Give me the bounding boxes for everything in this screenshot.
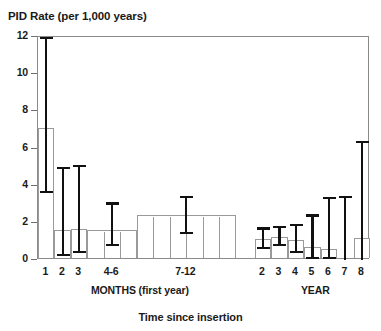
error-bar-cap-top [306, 214, 319, 216]
y-axis-tick-label: 4 [22, 178, 28, 190]
error-bar-cap-bottom [306, 257, 319, 259]
error-bar-cap-bottom [40, 191, 53, 193]
bar-divider [104, 232, 105, 258]
error-bar-cap-top [73, 165, 86, 167]
x-axis-title: Time since insertion [0, 311, 381, 323]
error-bar-cap-bottom [257, 247, 270, 249]
error-bar-cap-top [106, 202, 119, 204]
error-bar-cap-top [323, 197, 336, 199]
error-bar-cap-bottom [106, 244, 119, 246]
error-bar-cap-bottom [180, 232, 193, 234]
error-bar-cap-top [180, 196, 193, 198]
error-bar-stem [361, 141, 363, 260]
bar-divider [120, 232, 121, 258]
bars-layer [38, 37, 368, 258]
y-axis-tick-label: 12 [17, 29, 28, 41]
y-axis-tick-mark [31, 259, 37, 260]
bar-divider [170, 217, 171, 258]
error-bar-cap-top [40, 37, 53, 39]
error-bar-cap-bottom [73, 251, 86, 253]
y-axis-tick-mark [31, 110, 37, 111]
error-bar-stem [111, 202, 113, 246]
y-axis-tick-label: 0 [22, 252, 28, 264]
y-axis-tick-label: 8 [22, 103, 28, 115]
plot-area [37, 36, 369, 259]
error-bar-cap-top [290, 224, 303, 226]
bar-divider [203, 217, 204, 258]
y-axis-tick-mark [31, 36, 37, 37]
y-axis-tick-label: 2 [22, 215, 28, 227]
error-bar-stem [311, 214, 313, 259]
y-axis-title: PID Rate (per 1,000 years) [8, 10, 147, 22]
error-bar-stem [185, 196, 187, 234]
y-axis-tick-mark [31, 222, 37, 223]
y-axis-tick-mark [31, 73, 37, 74]
error-bar-stem [78, 165, 80, 253]
error-bar-cap-bottom [290, 251, 303, 253]
error-bar-stem [62, 167, 64, 256]
chart-figure: PID Rate (per 1,000 years) 024681012 123… [0, 0, 381, 331]
error-bar-cap-bottom [323, 257, 336, 259]
x-axis-tick-label: 4-6 [86, 265, 136, 277]
error-bar-cap-top [356, 141, 369, 143]
error-bar-stem [295, 224, 297, 254]
x-axis-tick-label: 8 [336, 265, 381, 277]
bar-divider [219, 217, 220, 258]
y-axis-tick-label: 10 [17, 66, 28, 78]
error-bar-stem [328, 197, 330, 259]
group-bracket-label: MONTHS (first year) [37, 284, 243, 296]
error-bar-cap-top [273, 226, 286, 228]
error-bar-cap-bottom [273, 244, 286, 246]
x-axis-tick-label: 7-12 [160, 265, 210, 277]
y-axis-tick-label: 6 [22, 141, 28, 153]
error-bar-cap-top [57, 167, 70, 169]
y-axis-tick-mark [31, 148, 37, 149]
error-bar-cap-bottom [57, 254, 70, 256]
bar-divider [153, 217, 154, 258]
error-bar-stem [45, 37, 47, 193]
error-bar-stem [262, 227, 264, 248]
group-bracket-label: YEAR [254, 284, 377, 296]
y-axis-tick-mark [31, 185, 37, 186]
error-bar-cap-top [339, 196, 352, 198]
error-bar-cap-top [257, 227, 270, 229]
error-bar-stem [344, 196, 346, 260]
